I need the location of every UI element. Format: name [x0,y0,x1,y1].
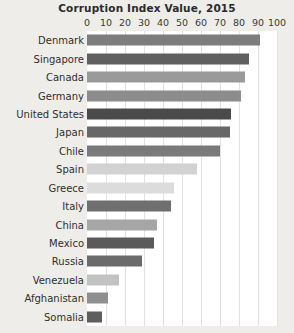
bar-row: Somalia [0,308,294,326]
bar-row: Mexico [0,234,294,252]
x-axis-tick-70: 70 [214,17,226,28]
category-label-china: China [55,219,84,230]
x-axis-tick-100: 100 [268,17,286,28]
bar-row: Denmark [0,31,294,49]
bar-row: Germany [0,86,294,104]
category-label-japan: Japan [56,127,84,138]
category-label-chile: Chile [59,145,84,156]
bar-spain [87,164,197,175]
bar-rows: DenmarkSingaporeCanadaGermanyUnited Stat… [0,31,294,326]
bar-row: Canada [0,68,294,86]
bar-row: Japan [0,123,294,141]
x-axis-tick-40: 40 [157,17,169,28]
x-axis-tick-20: 20 [119,17,131,28]
category-label-afghanistan: Afghanistan [24,293,84,304]
bar-afghanistan [87,293,108,304]
bar-somalia [87,311,102,322]
bar-japan [87,127,230,138]
category-label-mexico: Mexico [49,238,84,249]
category-label-spain: Spain [56,164,84,175]
category-label-russia: Russia [52,256,84,267]
bar-venezuela [87,274,119,285]
category-label-somalia: Somalia [44,311,84,322]
bar-row: Chile [0,142,294,160]
x-axis-tick-80: 80 [233,17,245,28]
x-axis-tick-30: 30 [138,17,150,28]
bar-italy [87,201,171,212]
bar-greece [87,182,174,193]
bar-germany [87,90,241,101]
bar-united-states [87,108,231,119]
bar-row: Venezuela [0,271,294,289]
category-label-greece: Greece [48,182,84,193]
bar-denmark [87,35,260,46]
category-label-italy: Italy [62,201,84,212]
bar-row: Greece [0,179,294,197]
bar-mexico [87,238,154,249]
category-label-venezuela: Venezuela [33,274,84,285]
x-axis-tick-0: 0 [84,17,90,28]
bar-row: United States [0,105,294,123]
bar-row: Russia [0,252,294,270]
bar-china [87,219,157,230]
category-label-germany: Germany [38,90,84,101]
category-label-denmark: Denmark [38,35,84,46]
chart-title: Corruption Index Value, 2015 [0,2,294,14]
bar-canada [87,72,245,83]
x-axis-tick-labels: 0102030405060708090100 [0,17,294,31]
bar-row: Italy [0,197,294,215]
bar-row: China [0,215,294,233]
corruption-index-bar-chart: Corruption Index Value, 2015 01020304050… [0,0,294,333]
x-axis-tick-10: 10 [100,17,112,28]
bar-row: Afghanistan [0,289,294,307]
bar-singapore [87,53,249,64]
bar-row: Singapore [0,49,294,67]
bar-row: Spain [0,160,294,178]
x-axis-tick-90: 90 [252,17,264,28]
bar-russia [87,256,142,267]
bar-chile [87,145,220,156]
category-label-singapore: Singapore [34,53,84,64]
x-axis-tick-50: 50 [176,17,188,28]
category-label-canada: Canada [46,72,84,83]
category-label-united-states: United States [16,108,84,119]
x-axis-tick-60: 60 [195,17,207,28]
